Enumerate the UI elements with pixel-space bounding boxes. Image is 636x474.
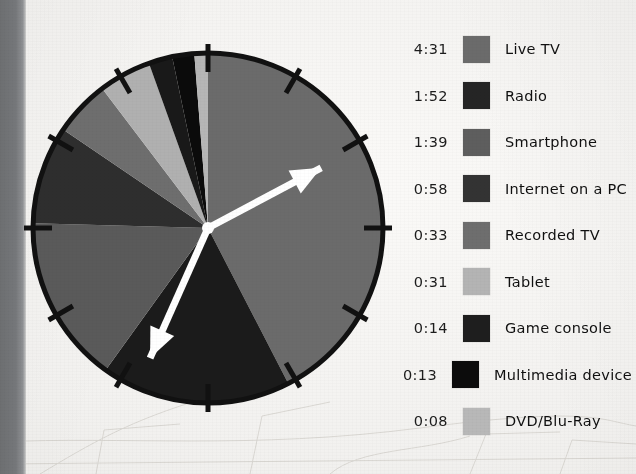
legend-item-game-console: 0:14Game console <box>394 305 632 352</box>
legend-time: 1:52 <box>394 88 448 104</box>
legend-label: Tablet <box>505 274 550 290</box>
legend-label: Recorded TV <box>505 227 600 243</box>
legend-time: 0:58 <box>394 181 448 197</box>
legend-item-live-tv: 4:31Live TV <box>394 26 632 73</box>
legend-label: Multimedia device <box>494 367 632 383</box>
legend-time: 4:31 <box>394 41 448 57</box>
legend-color-swatch <box>463 222 490 249</box>
left-edge-strip <box>0 0 26 474</box>
legend-item-multimedia-device: 0:13Multimedia device <box>394 352 632 399</box>
legend-item-tablet: 0:31Tablet <box>394 259 632 306</box>
legend-label: Smartphone <box>505 134 597 150</box>
legend-item-radio: 1:52Radio <box>394 73 632 120</box>
clock-hub <box>202 222 214 234</box>
legend-time: 0:31 <box>394 274 448 290</box>
legend-time: 0:14 <box>394 320 448 336</box>
chart-legend: 4:31Live TV1:52Radio1:39Smartphone0:58In… <box>394 26 632 445</box>
clock-pie-chart <box>24 38 394 418</box>
legend-time: 0:13 <box>394 367 437 383</box>
legend-label: Live TV <box>505 41 560 57</box>
legend-color-swatch <box>452 361 479 388</box>
legend-label: Internet on a PC <box>505 181 627 197</box>
legend-color-swatch <box>463 315 490 342</box>
legend-time: 0:33 <box>394 227 448 243</box>
legend-time: 0:08 <box>394 413 448 429</box>
legend-color-swatch <box>463 268 490 295</box>
legend-label: DVD/Blu-Ray <box>505 413 601 429</box>
legend-color-swatch <box>463 129 490 156</box>
legend-color-swatch <box>463 408 490 435</box>
legend-item-internet-on-a-pc: 0:58Internet on a PC <box>394 166 632 213</box>
legend-color-swatch <box>463 36 490 63</box>
legend-label: Game console <box>505 320 612 336</box>
legend-item-recorded-tv: 0:33Recorded TV <box>394 212 632 259</box>
legend-item-smartphone: 1:39Smartphone <box>394 119 632 166</box>
legend-item-dvd-blu-ray: 0:08DVD/Blu-Ray <box>394 398 632 445</box>
legend-time: 1:39 <box>394 134 448 150</box>
legend-label: Radio <box>505 88 547 104</box>
legend-color-swatch <box>463 175 490 202</box>
legend-color-swatch <box>463 82 490 109</box>
